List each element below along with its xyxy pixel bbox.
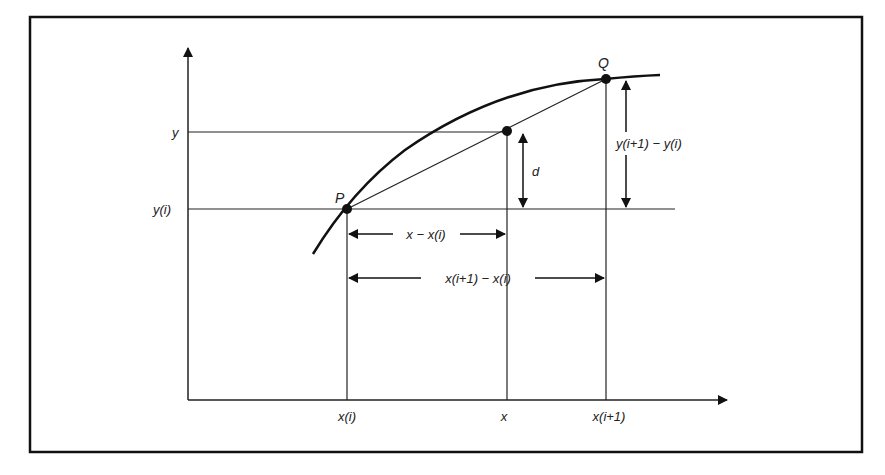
- diagram-frame: [30, 17, 862, 452]
- label-dx-partial: x − x(i): [405, 227, 445, 242]
- label-y: y: [171, 125, 180, 140]
- label-dy: y(i+1) − y(i): [615, 136, 682, 151]
- interpolation-diagram: P Q y y(i) x(i) x x(i+1) d y(i+1) − y(i)…: [0, 0, 885, 475]
- label-q: Q: [598, 55, 609, 71]
- label-y-i: y(i): [152, 202, 171, 217]
- point-interp: [502, 126, 512, 136]
- chord-pq: [347, 79, 606, 209]
- label-x-i: x(i): [337, 409, 356, 424]
- label-x-i1: x(i+1): [592, 409, 626, 424]
- function-curve: [313, 75, 660, 254]
- label-p: P: [335, 190, 345, 206]
- label-d: d: [532, 164, 540, 179]
- label-dx-full: x(i+1) − x(i): [444, 271, 511, 286]
- point-q: [601, 74, 611, 84]
- label-x: x: [500, 409, 508, 424]
